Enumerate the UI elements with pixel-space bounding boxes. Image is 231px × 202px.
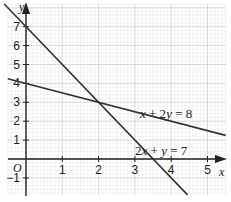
origin-label: O [13,161,22,175]
y-tick-label: 3 [13,95,20,109]
y-tick-label: 2 [13,114,20,128]
x-axis-label: x [218,165,225,179]
x-tick-label: 3 [132,163,139,177]
linear-equations-graph: 12345−11234567 y x O x + 2y = 8 2x + y =… [0,0,231,202]
x-axis-arrow-icon [215,155,227,163]
axes [8,2,227,196]
equation-lines [4,4,225,195]
equation-label-line2: 2x + y = 7 [135,143,188,158]
y-tick-label: 1 [13,133,20,147]
x-tick-label: 5 [204,163,211,177]
x-tick-label: 1 [59,163,66,177]
y-tick-label: 7 [13,20,20,34]
y-tick-label: 4 [13,76,20,90]
y-tick-label: 6 [13,39,20,53]
y-tick-label: 5 [13,58,20,72]
y-axis-label: y [18,0,25,14]
grid [8,4,226,195]
x-tick-label: 2 [95,163,102,177]
equation-label-line1: x + 2y = 8 [139,106,192,121]
